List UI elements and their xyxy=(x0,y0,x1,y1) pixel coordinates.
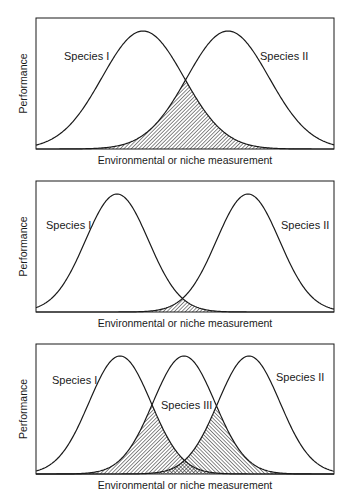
y-axis-label: Performance xyxy=(17,216,29,276)
curves xyxy=(36,194,334,312)
plot-frame xyxy=(36,181,334,312)
panel-2: Performance Environmental or niche measu… xyxy=(17,181,334,329)
overlap-region xyxy=(36,405,334,474)
species-label: Species I xyxy=(46,219,91,231)
species-label: Species I xyxy=(52,374,97,386)
niche-overlap-figure: Performance Environmental or niche measu… xyxy=(0,0,354,496)
species-label: Species III xyxy=(161,399,212,411)
species-label: Species I xyxy=(64,50,109,62)
y-axis-label: Performance xyxy=(17,53,29,113)
species-label: Species II xyxy=(276,371,324,383)
overlap-hatch xyxy=(36,81,334,149)
overlap-region xyxy=(36,81,334,149)
panel-3: Performance Environmental or niche measu… xyxy=(17,344,334,491)
overlap-hatch xyxy=(36,407,334,474)
species-label: Species II xyxy=(281,219,329,231)
performance-curve xyxy=(36,194,334,312)
x-axis-label: Environmental or niche measurement xyxy=(98,154,273,166)
panel-1: Performance Environmental or niche measu… xyxy=(17,18,334,166)
x-axis-label: Environmental or niche measurement xyxy=(98,317,273,329)
x-axis-label: Environmental or niche measurement xyxy=(98,479,273,491)
species-label: Species II xyxy=(260,50,308,62)
performance-curve xyxy=(36,194,334,312)
y-axis-label: Performance xyxy=(17,379,29,439)
